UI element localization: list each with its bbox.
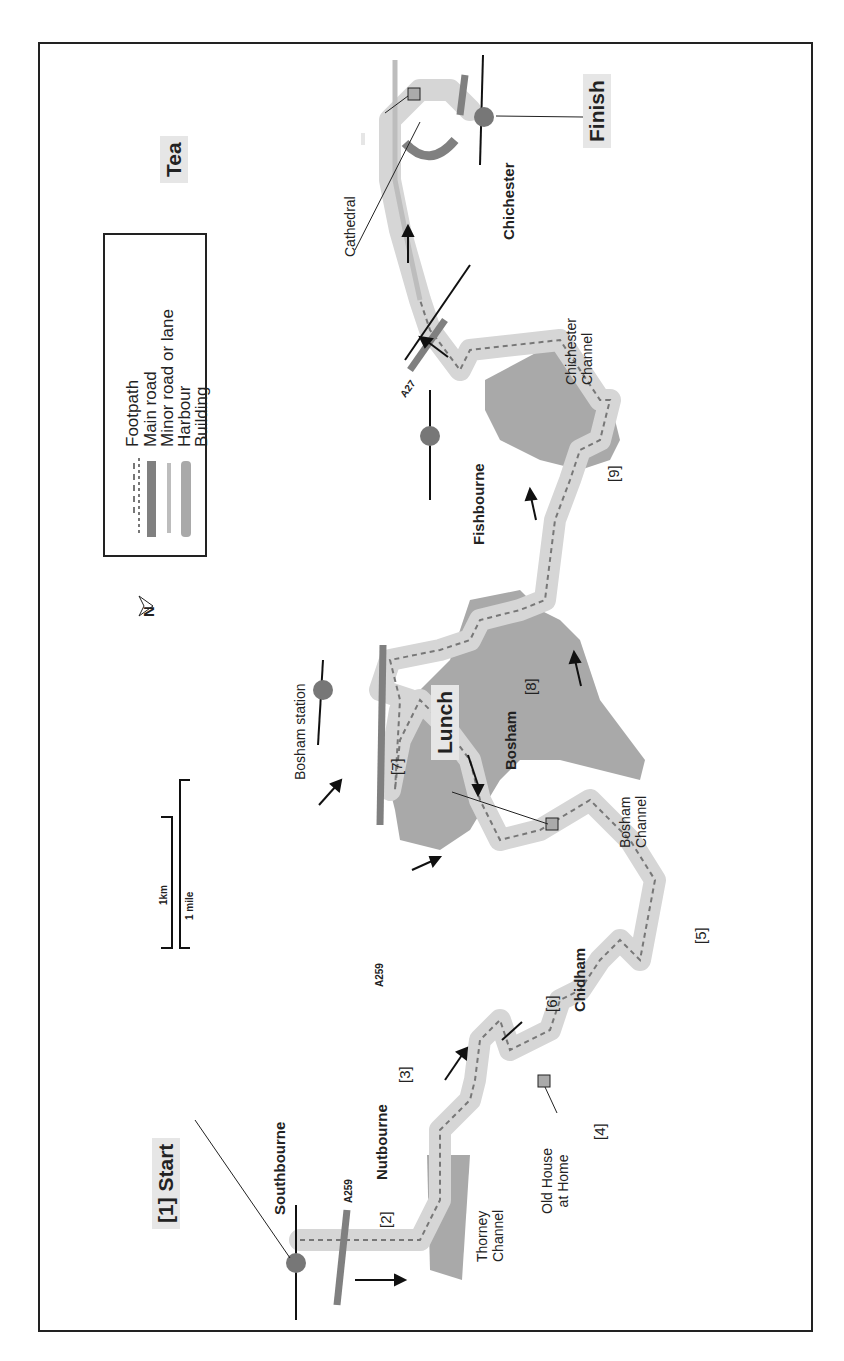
old-house-building: [538, 1075, 550, 1087]
tea-building: [408, 88, 420, 100]
waypoint-2: [2]: [377, 1211, 394, 1228]
legend: Footpath Main road Minor road or lane Ha…: [103, 233, 207, 557]
a259-west-road: [337, 1210, 347, 1305]
scale-km-label: 1km: [158, 885, 169, 905]
north-label: N: [140, 606, 157, 617]
thorney-channel-label: ThorneyChannel: [474, 1210, 506, 1262]
placeholder-spacer: [361, 133, 365, 145]
waypoint-5: [5]: [692, 927, 709, 944]
bosham-station-label: Bosham station: [292, 684, 308, 781]
minor-road-symbol: [167, 463, 171, 533]
route-map: [0, 0, 844, 1361]
harbour-symbol: [181, 461, 191, 537]
waypoint-6: [6]: [543, 995, 560, 1012]
place-nutbourne: Nutbourne: [373, 1104, 390, 1180]
main-road-symbol: [147, 461, 156, 537]
chichester-ring-road: [405, 140, 455, 156]
waypoint-7: [7]: [388, 758, 405, 775]
place-bosham: Bosham: [502, 711, 519, 770]
chichester-east-road: [460, 75, 465, 115]
place-fishbourne: Fishbourne: [470, 463, 487, 545]
chichester-station-dot: [474, 107, 494, 127]
place-chidham: Chidham: [571, 948, 588, 1012]
old-house-label: Old Houseat Home: [539, 1148, 571, 1214]
legend-footpath-label: Footpath: [123, 380, 143, 447]
finish-label: Finish: [583, 74, 611, 148]
footpath-symbol: [133, 463, 139, 513]
scale-bar-mile: [180, 780, 190, 948]
start-label: [1] Start: [152, 1138, 180, 1229]
rail-bosham: [318, 660, 323, 745]
place-southbourne: Southbourne: [271, 1122, 288, 1215]
a259-west-road-label: A259: [343, 1179, 354, 1203]
waypoint-9: [9]: [605, 465, 622, 482]
cathedral-label: Cathedral: [342, 196, 358, 257]
chichester-channel-label: ChichesterChannel: [563, 318, 595, 385]
bosham-channel-label: BoshamChannel: [617, 796, 649, 848]
scale-bar-km: [161, 817, 172, 948]
legend-building-label: Building: [192, 387, 212, 448]
lunch-label: Lunch: [431, 685, 459, 760]
fishbourne-station-dot: [420, 426, 440, 446]
waypoint-4: [4]: [591, 1123, 608, 1140]
a259-mid-road-label: A259: [374, 963, 385, 987]
waypoint-8: [8]: [522, 678, 539, 695]
tea-label: Tea: [160, 136, 188, 183]
place-chichester: Chichester: [500, 162, 517, 240]
scale-mile-label: 1 mile: [184, 892, 195, 920]
waypoint-3: [3]: [396, 1066, 413, 1083]
a259-mid-road: [380, 645, 383, 825]
bosham-station-dot: [313, 680, 333, 700]
